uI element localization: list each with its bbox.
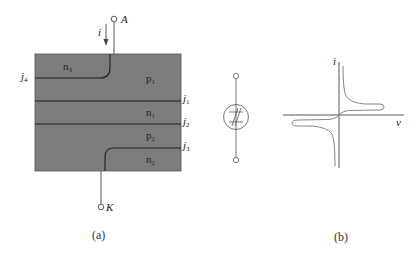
current-label: i <box>98 26 101 38</box>
y-axis-label: i <box>333 55 336 67</box>
junction-j2-label: j2 <box>181 115 190 129</box>
thyristor-symbol <box>224 73 249 162</box>
anode-label: A <box>120 13 128 25</box>
junction-j1-label: j1 <box>181 92 190 106</box>
iv-characteristic: i v (b) <box>283 55 404 244</box>
junction-j3-label: j3 <box>181 139 190 153</box>
caption-a: (a) <box>92 228 105 242</box>
anode-terminal <box>111 16 117 22</box>
figure-canvas: A i K n3 p1 n1 p2 n2 j4 j1 j2 j3 (a) i <box>0 0 417 254</box>
caption-b: (b) <box>334 230 348 244</box>
device-structure: A i K n3 p1 n1 p2 n2 j4 j1 j2 j3 (a) <box>19 13 190 242</box>
cathode-terminal <box>98 204 104 210</box>
junction-j4-label: j4 <box>19 70 28 84</box>
iv-curve-reverse <box>292 115 339 166</box>
current-arrow-head <box>104 39 109 46</box>
silicon-block <box>35 54 181 171</box>
symbol-top-terminal <box>233 73 238 78</box>
symbol-bottom-terminal <box>233 157 238 162</box>
iv-curve-forward <box>339 66 384 115</box>
symbol-slant-left <box>232 108 238 126</box>
cathode-label: K <box>105 201 114 213</box>
x-axis-label: v <box>396 116 401 128</box>
